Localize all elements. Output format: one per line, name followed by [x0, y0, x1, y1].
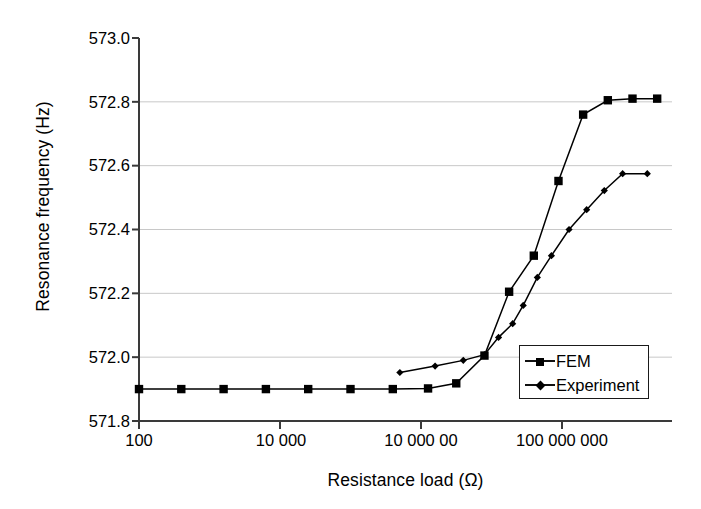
data-point-fem [452, 379, 460, 387]
data-point-fem [346, 385, 354, 393]
data-point-fem [554, 177, 562, 185]
data-point-fem [262, 385, 270, 393]
data-point-fem [177, 385, 185, 393]
data-point-fem [389, 385, 397, 393]
legend-label: Experiment [556, 377, 639, 394]
data-point-fem [505, 288, 513, 296]
legend: FEM Experiment [519, 345, 649, 399]
square-marker-icon [525, 354, 555, 368]
legend-label: FEM [556, 353, 591, 370]
axis-ticks [132, 38, 562, 429]
legend-item-fem: FEM [520, 349, 648, 373]
data-point-experiment [644, 170, 651, 177]
series-line-experiment [400, 174, 647, 373]
data-point-fem [628, 94, 636, 102]
data-point-fem [304, 385, 312, 393]
data-point-fem [135, 385, 143, 393]
plot-area [0, 0, 701, 509]
data-point-experiment [432, 363, 439, 370]
data-point-fem [530, 251, 538, 259]
data-point-fem [653, 94, 661, 102]
resonance-frequency-chart: Resonance frequency (Hz) 573.0 572.8 572… [0, 0, 701, 509]
legend-item-experiment: Experiment [520, 373, 648, 397]
data-point-fem [219, 385, 227, 393]
data-point-experiment [520, 302, 527, 309]
data-point-fem [604, 96, 612, 104]
data-point-fem [579, 110, 587, 118]
data-point-experiment [460, 357, 467, 364]
data-point-fem [424, 384, 432, 392]
plot-canvas [0, 0, 701, 509]
data-point-experiment [396, 369, 403, 376]
diamond-marker-icon [525, 378, 555, 392]
